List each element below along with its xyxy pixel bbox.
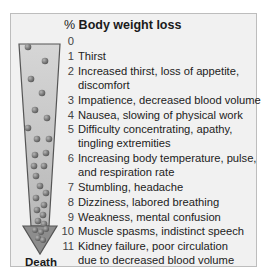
stage-percent: 10 [60, 224, 74, 238]
stage-percent: 6 [64, 151, 74, 165]
stage-effect-cont: discomfort [78, 78, 130, 92]
stage-effect: Muscle spasms, indistinct speech [78, 224, 244, 238]
stage-percent: 8 [64, 195, 74, 209]
stage-percent: 9 [64, 210, 74, 224]
stage-effect-cont: and respiration rate [78, 165, 174, 179]
stage-effect: Kidney failure, poor circulation [78, 239, 228, 253]
stage-effect: Difficulty concentrating, apathy, [78, 122, 232, 136]
stage-effect: Dizziness, labored breathing [78, 195, 219, 209]
stage-effect: Increasing body temperature, pulse, [78, 151, 256, 165]
stage-effect: Increased thirst, loss of appetite, [78, 64, 239, 78]
stage-percent: 11 [60, 239, 74, 253]
stage-percent: 1 [64, 49, 74, 63]
stage-effect-cont: due to decreased blood volume [78, 253, 234, 267]
stage-percent: 0 [64, 34, 74, 48]
stage-effect-cont: tingling extremities [78, 136, 171, 150]
stage-percent: 4 [64, 108, 74, 122]
stage-effect: Nausea, slowing of physical work [78, 108, 243, 122]
stage-effect: Impatience, decreased blood volume [78, 93, 261, 107]
stage-percent: 3 [64, 93, 74, 107]
stage-effect: Weakness, mental confusion [78, 210, 221, 224]
arrow-shaft [19, 44, 60, 226]
death-label: Death [18, 256, 64, 268]
stage-effect: Thirst [78, 49, 106, 63]
stage-percent: 5 [64, 122, 74, 136]
stage-percent: 2 [64, 64, 74, 78]
stage-effect: Stumbling, headache [78, 180, 183, 194]
stage-percent: 7 [64, 180, 74, 194]
